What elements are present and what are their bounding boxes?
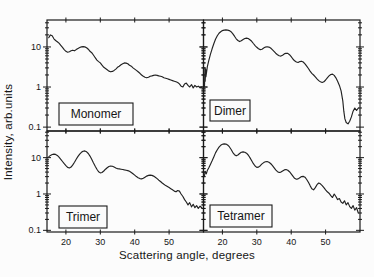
y-axis-title: Intensity, arb.units [2, 62, 14, 202]
series-trimer [49, 151, 202, 209]
panel-bottom-right: 20304050Tetramer [200, 129, 365, 248]
x-tick-label: 50 [164, 237, 174, 247]
y-tick-label: 1 [36, 189, 41, 199]
figure: 1010.1MonomerDimer1010.120304050Trimer20… [0, 0, 374, 277]
x-tick-label: 30 [252, 237, 262, 247]
panel-label-trimer: Trimer [66, 210, 100, 224]
y-tick-label: 10 [31, 153, 41, 163]
scattering-intensity-plot-grid: 1010.1MonomerDimer1010.120304050Trimer20… [0, 0, 374, 277]
panel-top-right: Dimer [200, 18, 365, 134]
panel-label-dimer: Dimer [214, 104, 246, 118]
panel-label-monomer: Monomer [71, 107, 122, 121]
x-tick-label: 30 [95, 237, 105, 247]
x-tick-label: 50 [321, 237, 331, 247]
x-tick-label: 40 [130, 237, 140, 247]
y-tick-label: 1 [36, 82, 41, 92]
series-tetramer [205, 144, 359, 213]
x-tick-label: 20 [217, 237, 227, 247]
x-tick-label: 20 [61, 237, 71, 247]
series-monomer [49, 35, 202, 88]
y-tick-label: 10 [31, 42, 41, 52]
panel-label-tetramer: Tetramer [217, 209, 264, 223]
x-axis-title: Scattering angle, degrees [0, 249, 374, 261]
x-tick-label: 40 [286, 237, 296, 247]
y-tick-label: 0.1 [28, 122, 41, 132]
panel-bottom-left: 1010.120304050Trimer [28, 129, 207, 248]
y-tick-label: 0.1 [28, 225, 41, 235]
panel-top-left: 1010.1Monomer [28, 18, 207, 134]
